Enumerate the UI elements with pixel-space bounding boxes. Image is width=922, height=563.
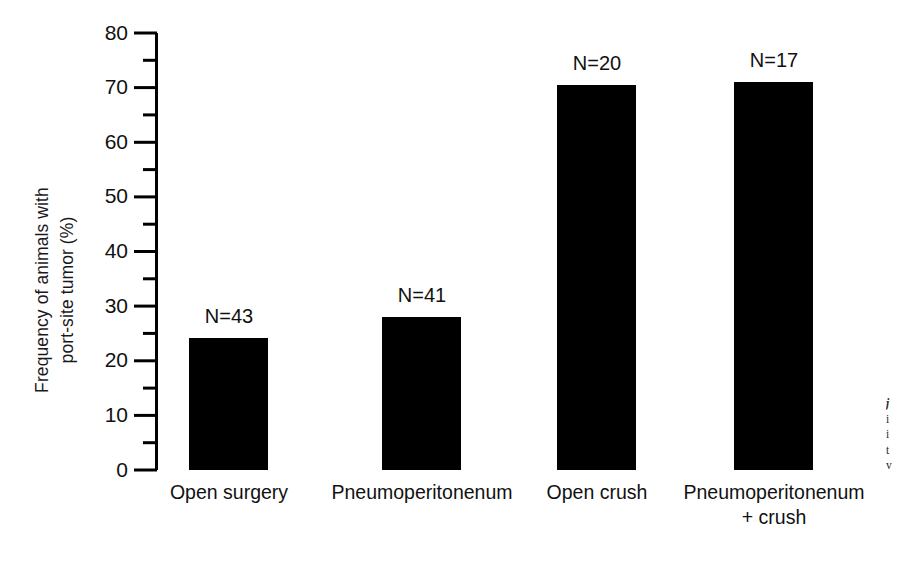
bar-open-surgery[interactable]: [189, 338, 268, 470]
bar-label-open-surgery: N=43: [174, 306, 284, 326]
bar-open-crush[interactable]: [557, 85, 636, 470]
x-tick-label-pneumoperitonenum-crush-line-1: Pneumoperitonenum: [668, 480, 880, 505]
caption-line-1: j: [886, 396, 922, 412]
x-tick-label-pneumoperitonenum-crush: Pneumoperitonenum + crush: [668, 480, 880, 530]
bar-label-pneumoperitonenum-crush: N=17: [719, 50, 829, 70]
caption-line-2: i: [886, 412, 922, 428]
caption-line-5: v: [886, 458, 922, 474]
bar-pneumoperitonenum-crush[interactable]: [734, 82, 813, 470]
x-tick-label-open-surgery-line-1: Open surgery: [148, 480, 310, 505]
plot-area: N=43 N=41 N=20 N=17 Open surgery Pneumop…: [0, 0, 922, 563]
bar-pneumoperitonenum[interactable]: [382, 317, 461, 470]
x-tick-label-open-crush: Open crush: [521, 480, 673, 505]
figure-bar-chart: Frequency of animals with port-site tumo…: [0, 0, 922, 563]
x-tick-label-pneumoperitonenum: Pneumoperitonenum: [317, 480, 527, 505]
x-tick-label-pneumoperitonenum-crush-line-2: + crush: [668, 505, 880, 530]
x-tick-label-open-crush-line-1: Open crush: [521, 480, 673, 505]
x-tick-label-open-surgery: Open surgery: [148, 480, 310, 505]
caption-line-4: t: [886, 443, 922, 459]
bar-label-open-crush: N=20: [542, 53, 652, 73]
caption-line-3: i: [886, 427, 922, 443]
bar-label-pneumoperitonenum: N=41: [367, 285, 477, 305]
x-tick-label-pneumoperitonenum-line-1: Pneumoperitonenum: [317, 480, 527, 505]
figure-caption-truncated: j i i t v: [886, 396, 922, 526]
